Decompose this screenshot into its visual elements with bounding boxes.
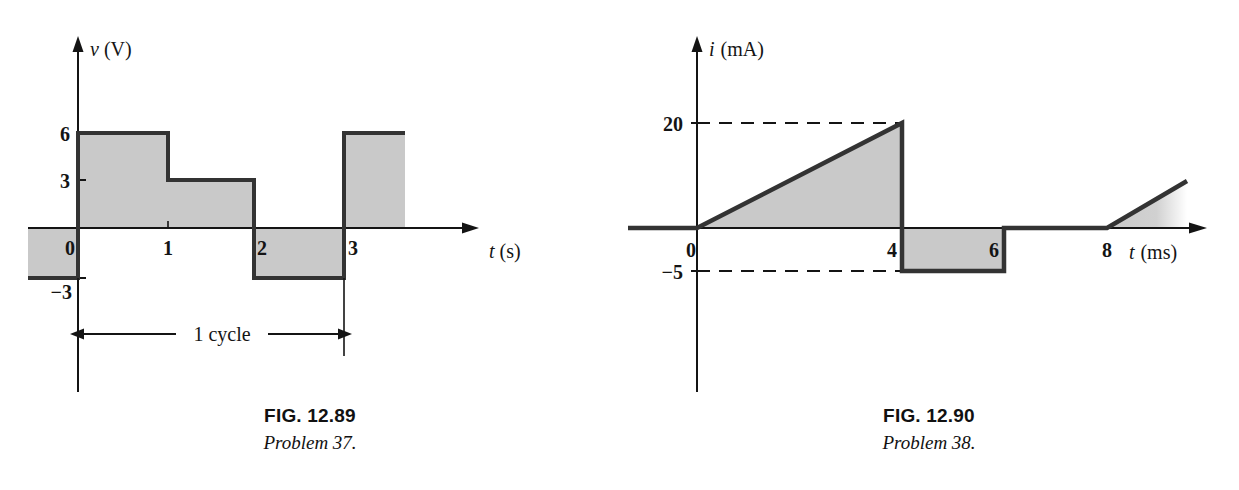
x-axis-title: t(s): [489, 240, 521, 263]
y-tick-label-3: 3: [60, 170, 70, 192]
y-axis-unit: (V): [104, 38, 132, 61]
figure-number-label: FIG. 12.90: [619, 404, 1239, 428]
y-axis-title: v(V): [90, 38, 132, 61]
y-tick-label-6: 6: [60, 123, 70, 145]
one-cycle-label: 1 cycle: [193, 323, 250, 346]
x-tick-label-0: 0: [686, 239, 696, 261]
figure-problem-label: Problem 38.: [619, 431, 1239, 455]
figure-number-label: FIG. 12.89: [0, 404, 620, 428]
x-axis-variable: t: [1129, 241, 1135, 263]
waveform-fill-region: [697, 123, 1187, 271]
figure-12-90: 20 −5 0 4 6 8 i(mA) t(ms) FIG. 12.90 Pro…: [619, 0, 1239, 490]
x-tick-label-0: 0: [65, 237, 75, 259]
x-tick-label-3: 3: [348, 237, 358, 259]
x-axis-variable: t: [489, 240, 495, 262]
figure-page: 6 3 −3 0 1 2 3 v(V) t(s) 1 cycle FIG. 12…: [0, 0, 1239, 490]
y-tick-label-neg5: −5: [662, 261, 683, 283]
y-axis-variable: i: [709, 38, 715, 60]
figure-problem-label: Problem 37.: [0, 431, 620, 455]
x-tick-label-2: 2: [257, 237, 267, 259]
y-axis-unit: (mA): [721, 38, 764, 61]
y-tick-label-neg3: −3: [51, 281, 72, 303]
chart-voltage-waveform: 6 3 −3 0 1 2 3 v(V) t(s) 1 cycle: [0, 0, 620, 400]
x-axis-title: t(ms): [1129, 241, 1177, 264]
y-axis-variable: v: [90, 38, 99, 60]
x-tick-label-1: 1: [163, 237, 173, 259]
figure-caption-right: FIG. 12.90 Problem 38.: [619, 404, 1239, 455]
x-tick-label-8: 8: [1102, 239, 1112, 261]
x-axis-unit: (s): [500, 240, 521, 263]
y-axis-title: i(mA): [709, 38, 764, 61]
x-axis-unit: (ms): [1140, 241, 1177, 264]
figure-12-89: 6 3 −3 0 1 2 3 v(V) t(s) 1 cycle FIG. 12…: [0, 0, 620, 490]
chart-current-waveform: 20 −5 0 4 6 8 i(mA) t(ms): [619, 0, 1239, 400]
x-tick-label-6: 6: [989, 239, 999, 261]
y-tick-label-20: 20: [663, 113, 683, 135]
figure-caption-left: FIG. 12.89 Problem 37.: [0, 404, 620, 455]
i-axis: [692, 36, 703, 392]
x-tick-label-4: 4: [887, 239, 897, 261]
